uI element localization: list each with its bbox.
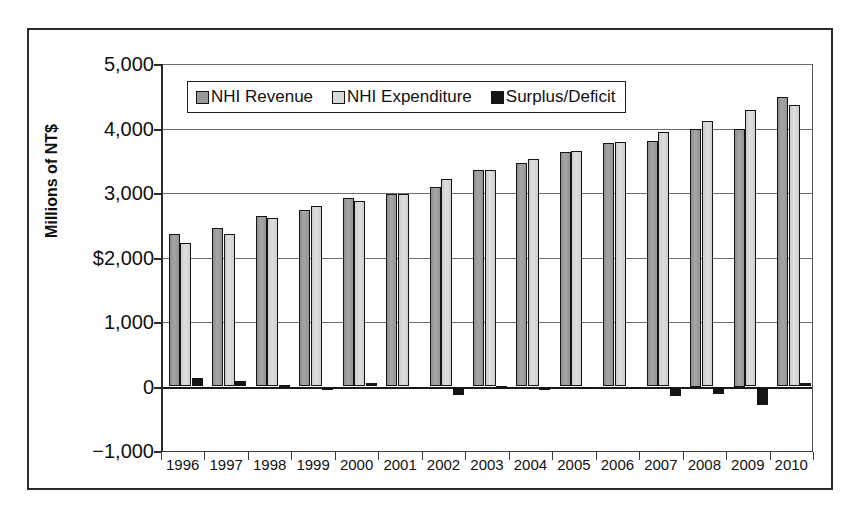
bar-expenditure-1997[interactable] xyxy=(224,234,235,387)
x-axis-line xyxy=(161,451,813,452)
y-tick-label: 4,000 xyxy=(34,117,154,140)
y-tick-mark xyxy=(154,64,161,66)
bar-expenditure-2010[interactable] xyxy=(789,105,800,387)
bar-surplus-2000[interactable] xyxy=(366,383,377,387)
bar-group-2001 xyxy=(386,64,420,451)
bar-expenditure-2003[interactable] xyxy=(485,170,496,386)
y-tick-mark xyxy=(154,451,161,453)
bar-surplus-2003[interactable] xyxy=(496,386,507,388)
bar-surplus-1999[interactable] xyxy=(322,387,333,391)
bar-group-1996 xyxy=(169,64,203,451)
bar-revenue-2007[interactable] xyxy=(647,141,658,387)
bar-revenue-1998[interactable] xyxy=(256,216,267,386)
bar-group-1997 xyxy=(212,64,246,451)
plot-area xyxy=(161,64,813,451)
bar-revenue-1997[interactable] xyxy=(212,228,223,386)
y-tick-mark xyxy=(154,322,161,324)
bar-revenue-2000[interactable] xyxy=(343,198,354,387)
bar-revenue-2004[interactable] xyxy=(516,163,527,387)
bar-revenue-2006[interactable] xyxy=(603,143,614,386)
bar-revenue-2010[interactable] xyxy=(777,97,788,387)
bar-surplus-2009[interactable] xyxy=(757,387,768,406)
bar-revenue-2003[interactable] xyxy=(473,170,484,386)
bar-group-2004 xyxy=(516,64,550,451)
legend-label: NHI Expenditure xyxy=(347,87,472,107)
y-tick-label: −1,000 xyxy=(34,440,154,463)
bar-group-2000 xyxy=(343,64,377,451)
bar-group-1998 xyxy=(256,64,290,451)
bar-group-2007 xyxy=(647,64,681,451)
bar-revenue-1996[interactable] xyxy=(169,234,180,386)
legend-entry-surplus-deficit[interactable]: Surplus/Deficit xyxy=(491,87,616,107)
y-tick-label: 0 xyxy=(34,375,154,398)
bar-group-2002 xyxy=(430,64,464,451)
bars-layer xyxy=(163,64,812,451)
bar-expenditure-2000[interactable] xyxy=(354,201,365,386)
x-tick-label-2010: 2010 xyxy=(763,456,819,473)
y-tick-mark xyxy=(154,129,161,131)
legend-entry-revenue[interactable]: NHI Revenue xyxy=(196,87,313,107)
bar-revenue-2009[interactable] xyxy=(734,129,745,387)
bar-expenditure-2005[interactable] xyxy=(571,151,582,386)
bar-surplus-2008[interactable] xyxy=(713,387,724,394)
y-tick-label: 5,000 xyxy=(34,53,154,76)
bar-revenue-1999[interactable] xyxy=(299,210,310,387)
bar-revenue-2002[interactable] xyxy=(430,187,441,386)
bar-surplus-2010[interactable] xyxy=(800,383,811,387)
bar-expenditure-2008[interactable] xyxy=(702,121,713,386)
bar-expenditure-2001[interactable] xyxy=(398,194,409,387)
bar-surplus-1997[interactable] xyxy=(235,381,246,386)
legend-entry-expenditure[interactable]: NHI Expenditure xyxy=(332,87,472,107)
bar-surplus-2007[interactable] xyxy=(670,387,681,396)
bar-group-2010 xyxy=(777,64,811,451)
bar-surplus-2001[interactable] xyxy=(409,387,420,389)
bar-expenditure-2009[interactable] xyxy=(745,110,756,387)
legend-label: NHI Revenue xyxy=(211,87,313,107)
bar-expenditure-2002[interactable] xyxy=(441,179,452,387)
bar-group-2005 xyxy=(560,64,594,451)
chart-legend: NHI RevenueNHI ExpenditureSurplus/Defici… xyxy=(187,81,626,113)
bar-revenue-2001[interactable] xyxy=(386,194,397,386)
y-tick-mark xyxy=(154,193,161,195)
legend-label: Surplus/Deficit xyxy=(506,87,616,107)
bar-surplus-2002[interactable] xyxy=(453,387,464,395)
bar-surplus-2005[interactable] xyxy=(583,387,594,389)
bar-group-2008 xyxy=(690,64,724,451)
legend-swatch-icon xyxy=(491,91,504,104)
bar-expenditure-2007[interactable] xyxy=(658,132,669,387)
legend-swatch-icon xyxy=(196,91,209,104)
y-tick-label: 1,000 xyxy=(34,311,154,334)
bar-surplus-2006[interactable] xyxy=(626,387,637,389)
bar-expenditure-1999[interactable] xyxy=(311,206,322,387)
bar-group-2009 xyxy=(734,64,768,451)
bar-revenue-2005[interactable] xyxy=(560,152,571,387)
bar-expenditure-2004[interactable] xyxy=(528,159,539,386)
y-tick-mark xyxy=(154,258,161,260)
bar-surplus-2004[interactable] xyxy=(539,387,550,390)
legend-swatch-icon xyxy=(332,91,345,104)
bar-expenditure-1996[interactable] xyxy=(180,243,191,387)
bar-expenditure-2006[interactable] xyxy=(615,142,626,386)
bar-group-2006 xyxy=(603,64,637,451)
bar-expenditure-1998[interactable] xyxy=(267,218,278,387)
bar-chart: Millions of NT$ 5,0004,0003,000$2,0001,0… xyxy=(0,0,860,515)
bar-group-2003 xyxy=(473,64,507,451)
bar-revenue-2008[interactable] xyxy=(690,129,701,387)
bar-group-1999 xyxy=(299,64,333,451)
y-tick-mark xyxy=(154,387,161,389)
y-tick-label: $2,000 xyxy=(34,246,154,269)
bar-surplus-1996[interactable] xyxy=(192,378,203,386)
bar-surplus-1998[interactable] xyxy=(279,385,290,387)
y-tick-label: 3,000 xyxy=(34,182,154,205)
